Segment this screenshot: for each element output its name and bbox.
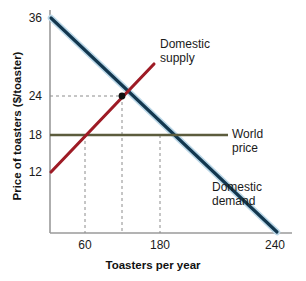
y-tick-label-36: 36: [8, 11, 42, 25]
series-label-domestic-supply-line2: supply: [160, 52, 210, 66]
series-label-domestic-demand: Domestic demand: [212, 181, 262, 208]
series-label-world-price-line1: World: [232, 128, 263, 142]
domestic-supply-line: [51, 64, 154, 172]
y-axis-title: Price of toasters ($/toaster): [11, 41, 23, 211]
series-label-world-price-line2: price: [232, 142, 263, 156]
series-label-domestic-demand-line1: Domestic: [212, 181, 262, 195]
x-axis-title: Toasters per year: [0, 259, 306, 271]
x-tick-label-60: 60: [65, 238, 105, 252]
chart-container: 36 24 18 12 60 180 240 Price of toasters…: [0, 0, 306, 281]
series-label-domestic-supply-line1: Domestic: [160, 38, 210, 52]
x-tick-label-240: 240: [255, 238, 295, 252]
equilibrium-point-marker: [119, 93, 126, 100]
series-label-domestic-demand-line2: demand: [212, 195, 262, 209]
x-tick-label-180: 180: [140, 238, 180, 252]
series-label-world-price: World price: [232, 128, 263, 155]
series-label-domestic-supply: Domestic supply: [160, 38, 210, 65]
